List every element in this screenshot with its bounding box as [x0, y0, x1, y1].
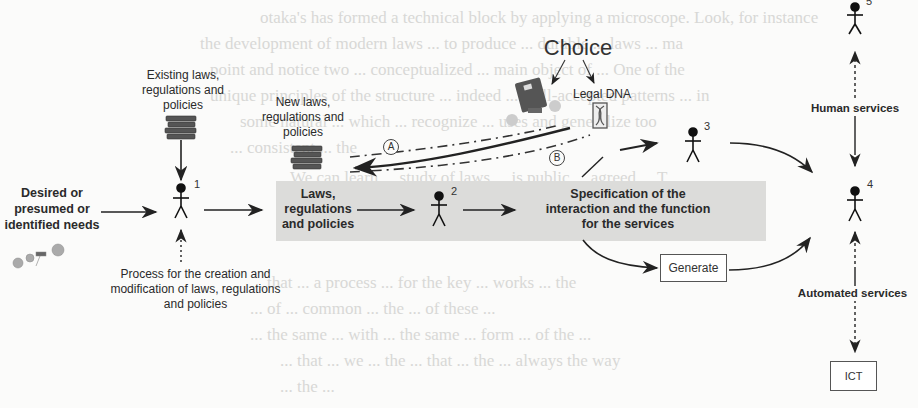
actor3-number: 3	[704, 120, 710, 132]
path-b-marker: B	[549, 150, 565, 166]
existing-laws-label: Existing laws, regulations and policies	[128, 68, 238, 113]
laws-band-label: Laws, regulations and policies	[278, 187, 358, 232]
ict-box: ICT	[830, 361, 877, 391]
books-stack-icon-existing	[165, 116, 196, 139]
people-group-icon	[13, 244, 64, 268]
person-icon-actor2	[431, 192, 447, 226]
law-book-icon	[506, 77, 561, 126]
needs-label: Desired or presumed or identified needs	[2, 185, 102, 233]
books-stack-icon-new	[291, 146, 322, 169]
legal-dna-label: Legal DNA	[572, 87, 632, 102]
specification-label: Specification of the interaction and the…	[538, 187, 718, 232]
person-icon-actor1	[173, 184, 189, 218]
actor2-number: 2	[451, 185, 457, 197]
actor4-number: 4	[867, 178, 873, 190]
arrow-choice-to-book	[552, 60, 565, 84]
diagram-connectors	[0, 0, 918, 408]
arrow-actor3-to-actor4	[730, 143, 812, 172]
human-services-label: Human services	[800, 101, 910, 116]
automated-services-label: Automated services	[790, 286, 915, 301]
choice-title: Choice	[543, 36, 613, 60]
line-spec-to-choice	[582, 157, 603, 177]
actor1-number: 1	[194, 178, 200, 190]
arrow-to-actor3	[620, 143, 657, 150]
person-icon-actor4	[847, 187, 863, 221]
generate-box: Generate	[660, 254, 727, 282]
actor5-number: 5	[866, 0, 872, 7]
arrow-generate-to-actor4	[729, 238, 810, 270]
person-icon-actor5	[847, 3, 863, 34]
process-label: Process for the creation and modificatio…	[108, 267, 283, 312]
dna-helix-icon	[593, 103, 607, 128]
path-a-marker: A	[383, 139, 399, 155]
arrow-choice-to-dna	[583, 60, 594, 83]
new-laws-label: New laws, regulations and policies	[253, 95, 353, 140]
arrow-spec-to-generate	[583, 240, 657, 268]
person-icon-actor3	[685, 128, 701, 162]
